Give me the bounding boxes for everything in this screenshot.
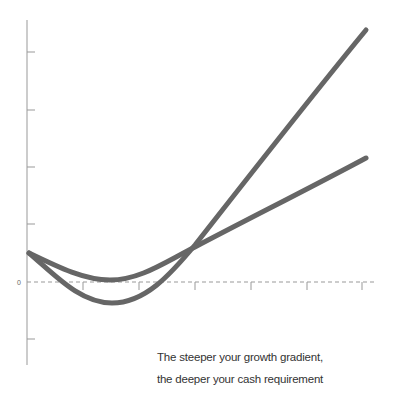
curve-gentle-growth — [29, 158, 366, 280]
chart-caption: The steeper your growth gradient, the de… — [140, 346, 340, 390]
caption-line-1: The steeper your growth gradient, — [140, 346, 340, 368]
y-tick-label-zero: 0 — [17, 279, 21, 286]
caption-line-2: the deeper your cash requirement — [140, 368, 340, 390]
curve-steep-growth — [29, 30, 366, 303]
y-axis — [27, 20, 35, 365]
zero-line — [27, 282, 377, 290]
